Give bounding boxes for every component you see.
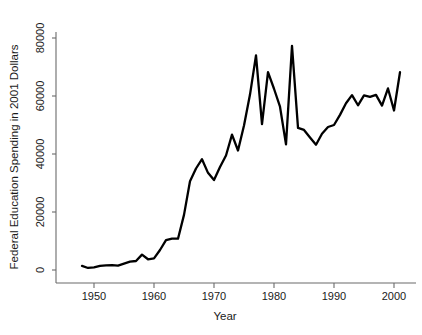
y-tick-label-40000: 40000	[34, 139, 46, 170]
y-tick-label-20000: 20000	[34, 197, 46, 228]
y-tick-label-0: 0	[34, 267, 46, 273]
y-axis-tick-labels: 0 20000 40000 60000 80000	[34, 23, 46, 273]
y-axis-ticks	[52, 38, 56, 270]
y-tick-label-80000: 80000	[34, 23, 46, 54]
x-tick-label-2000: 2000	[382, 290, 406, 302]
x-axis-ticks	[94, 283, 394, 288]
y-tick-label-60000: 60000	[34, 81, 46, 112]
x-tick-label-1990: 1990	[322, 290, 346, 302]
x-tick-label-1960: 1960	[142, 290, 166, 302]
data-series-line	[82, 46, 400, 268]
x-tick-label-1980: 1980	[262, 290, 286, 302]
x-axis-title: Year	[213, 310, 236, 322]
x-tick-label-1970: 1970	[202, 290, 226, 302]
chart-figure: Federal Education Spending in 2001 Dolla…	[0, 0, 422, 335]
line-chart: Federal Education Spending in 2001 Dolla…	[0, 0, 422, 335]
x-tick-label-1950: 1950	[82, 290, 106, 302]
y-axis-title: Federal Education Spending in 2001 Dolla…	[8, 44, 20, 269]
x-axis-tick-labels: 1950 1960 1970 1980 1990 2000	[82, 290, 406, 302]
